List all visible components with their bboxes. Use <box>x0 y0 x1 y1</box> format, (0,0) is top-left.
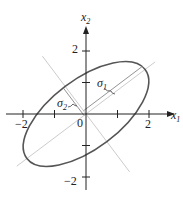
sigma1-length-line <box>84 66 143 111</box>
sigma2-label: σ2 <box>57 96 67 112</box>
ellipse-diagram: x1 x2 0 −2 2 2 −2 σ1 σ2 <box>0 0 183 199</box>
y-tick-label-2: 2 <box>72 42 78 56</box>
coordinate-axes <box>6 26 175 190</box>
x-tick-label-2: 2 <box>145 117 151 131</box>
origin-label: 0 <box>77 116 83 130</box>
x1-axis-label: x1 <box>170 108 180 124</box>
y-tick-label-neg2: −2 <box>64 174 77 188</box>
x-tick-label-neg2: −2 <box>15 117 28 131</box>
x2-arrow-icon <box>83 26 89 34</box>
x2-axis-label: x2 <box>80 10 90 26</box>
labels: x1 x2 0 −2 2 2 −2 σ1 σ2 <box>15 10 180 188</box>
